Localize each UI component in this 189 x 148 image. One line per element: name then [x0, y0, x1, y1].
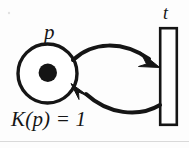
place-token: [39, 64, 57, 82]
transition-bar: [160, 28, 177, 125]
arc-place-to-transition: [73, 46, 160, 68]
place-capacity-label: K(p) = 1: [11, 109, 86, 130]
place-label: p: [44, 22, 55, 43]
arrowhead-into-transition: [139, 52, 160, 68]
transition-label: t: [163, 4, 168, 22]
petri-net-diagram: p t K(p) = 1: [0, 0, 189, 148]
